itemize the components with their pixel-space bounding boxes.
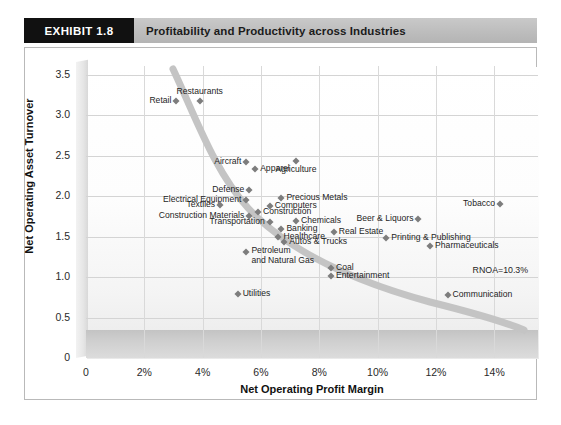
- data-point-label: Tobacco: [463, 200, 495, 210]
- data-point-label: Real Estate: [339, 227, 383, 237]
- gridline-horizontal: [86, 156, 538, 157]
- exhibit-number-badge: EXHIBIT 1.8: [24, 18, 134, 43]
- gridline-horizontal: [86, 115, 538, 116]
- gridline-horizontal: [86, 318, 538, 319]
- x-tick-label: 0: [66, 366, 106, 378]
- exhibit-figure: EXHIBIT 1.8 Profitability and Productivi…: [0, 0, 561, 425]
- x-tick-label: 2%: [124, 366, 164, 378]
- rnoa-annotation: RNOA=10.3%: [473, 265, 529, 275]
- plot-back-wall: [87, 67, 539, 359]
- y-tick-label: 3.0: [36, 108, 70, 120]
- y-axis-title: Net Operating Asset Turnover: [23, 71, 35, 281]
- x-tick-label: 14%: [474, 366, 514, 378]
- x-tick-label: 6%: [241, 366, 281, 378]
- plot-floor: [86, 330, 538, 358]
- y-tick-label: 1.0: [36, 270, 70, 282]
- gridline-horizontal: [86, 277, 538, 278]
- x-axis-title: Net Operating Profit Margin: [86, 383, 538, 395]
- y-tick-label: 2.0: [36, 189, 70, 201]
- gridline-vertical: [319, 66, 320, 358]
- gridline-vertical: [144, 66, 145, 358]
- gridline-horizontal: [86, 75, 538, 76]
- data-point-label: Agriculture: [275, 165, 316, 175]
- gridline-vertical: [378, 66, 379, 358]
- data-point-label: Utilities: [243, 289, 271, 299]
- x-tick-label: 10%: [358, 366, 398, 378]
- data-point-label: Retail: [149, 96, 171, 106]
- data-point-label: Communication: [453, 290, 513, 300]
- x-tick-label: 4%: [183, 366, 223, 378]
- y-tick-label: 2.5: [36, 149, 70, 161]
- gridline-vertical: [436, 66, 437, 358]
- exhibit-title: Profitability and Productivity across In…: [146, 18, 406, 43]
- data-point-label: Entertainment: [336, 272, 390, 282]
- data-point-label: Pharmaceuticals: [435, 242, 499, 252]
- y-tick-label: 0: [36, 351, 70, 363]
- x-tick-label: 8%: [299, 366, 339, 378]
- data-point-label: Defense: [212, 185, 244, 195]
- data-point-label: Restaurants: [177, 87, 223, 97]
- y-tick-label: 0.5: [36, 311, 70, 323]
- data-point-label: Transportation: [210, 217, 265, 227]
- data-point-label: Aircraft: [214, 158, 241, 168]
- data-point-label: Textiles: [186, 200, 215, 210]
- data-point-label: Petroleum and Natural Gas: [251, 246, 314, 265]
- data-point-label: Beer & Liquors: [357, 214, 414, 224]
- y-tick-label: 3.5: [36, 68, 70, 80]
- y-axis-wall: [76, 60, 88, 358]
- gridline-vertical: [494, 66, 495, 358]
- y-tick-label: 1.5: [36, 230, 70, 242]
- x-tick-label: 12%: [416, 366, 456, 378]
